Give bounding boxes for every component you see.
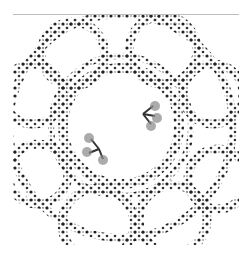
top-border-line: [13, 14, 239, 15]
fractal-graphic: [13, 14, 239, 245]
fractal-image: [13, 14, 239, 245]
